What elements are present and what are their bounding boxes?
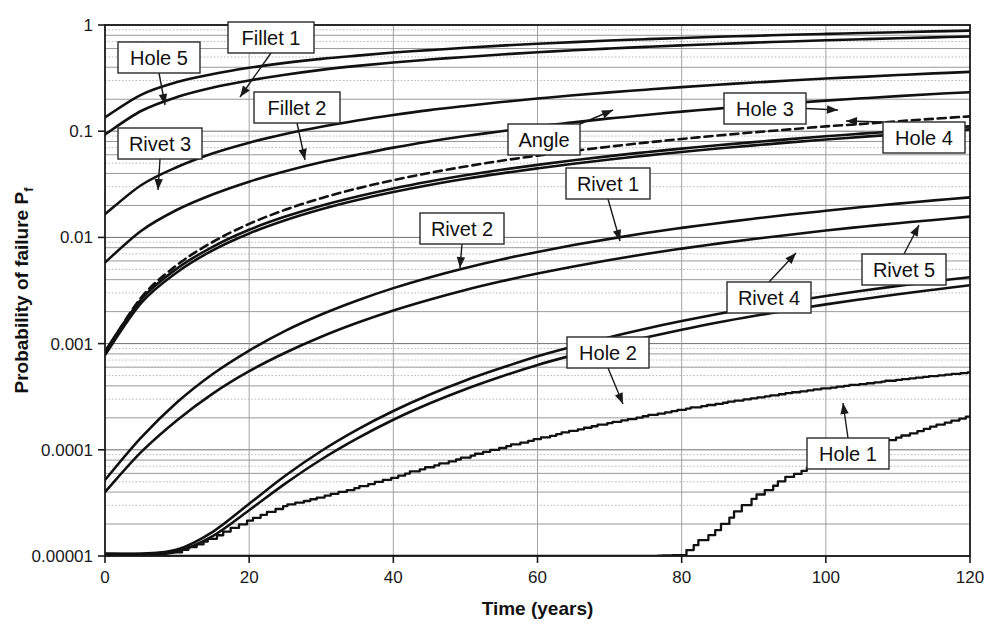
- callout-rivet-1: Rivet 1: [566, 168, 650, 241]
- callout-arrowhead: [299, 148, 307, 160]
- x-tick-labels: 020406080100120: [100, 568, 984, 587]
- callout-hole-1: Hole 1: [807, 403, 889, 469]
- y-tick-label: 0.0001: [41, 441, 93, 460]
- callout-arrowhead: [910, 225, 919, 237]
- callout-rivet-5: Rivet 5: [862, 225, 946, 285]
- callout-hole-3: Hole 3: [724, 93, 838, 124]
- y-axis-title-text: Probability of failure Pf: [11, 187, 36, 394]
- x-tick-label: 0: [100, 568, 109, 587]
- callout-arrowhead: [457, 257, 465, 268]
- probability-of-failure-chart: 020406080100120 10.10.010.0010.00010.000…: [0, 0, 999, 631]
- callout-fillet-1: Fillet 1: [228, 22, 314, 97]
- callout-label: Rivet 5: [873, 259, 935, 281]
- y-tick-label: 0.1: [69, 122, 93, 141]
- y-tick-label: 0.00001: [32, 547, 93, 566]
- callout-label: Hole 1: [819, 443, 877, 465]
- x-tick-label: 20: [240, 568, 259, 587]
- callout-label: Rivet 1: [577, 173, 639, 195]
- callout-label: Rivet 2: [431, 218, 493, 240]
- x-tick-label: 100: [812, 568, 840, 587]
- callout-arrowhead: [827, 105, 838, 113]
- axis-titles: Time (years)Probability of failure Pf: [11, 187, 593, 619]
- x-tick-label: 60: [528, 568, 547, 587]
- callout-hole-5: Hole 5: [118, 42, 200, 105]
- y-axis-title: Probability of failure Pf: [11, 187, 36, 394]
- callout-label: Hole 5: [130, 47, 188, 69]
- callout-rivet-3: Rivet 3: [118, 128, 202, 190]
- callout-label: Hole 3: [736, 98, 794, 120]
- callout-label: Hole 4: [895, 127, 953, 149]
- callout-arrowhead: [615, 392, 623, 404]
- x-tick-label: 40: [384, 568, 403, 587]
- callout-arrowhead: [155, 179, 163, 190]
- major-gridlines: [105, 25, 970, 556]
- callout-label: Fillet 2: [268, 97, 327, 119]
- callout-arrowhead: [240, 86, 250, 97]
- callout-label: Fillet 1: [242, 27, 301, 49]
- y-tick-label: 0.01: [60, 228, 93, 247]
- x-tick-label: 120: [956, 568, 984, 587]
- y-tick-label: 1: [84, 16, 93, 35]
- callout-label: Rivet 4: [738, 287, 800, 309]
- y-tick-label: 0.001: [50, 335, 93, 354]
- callout-label: Hole 2: [579, 342, 637, 364]
- callout-rivet-4: Rivet 4: [727, 253, 811, 313]
- x-tick-label: 80: [672, 568, 691, 587]
- y-axis-title-subscript: f: [21, 187, 36, 192]
- callout-rivet-2: Rivet 2: [420, 213, 504, 268]
- callout-label: Rivet 3: [129, 133, 191, 155]
- y-tick-labels: 10.10.010.0010.00010.00001: [32, 16, 93, 566]
- series-callouts: Hole 5Fillet 1Fillet 2Rivet 3AngleHole 3…: [118, 22, 965, 469]
- callout-label: Angle: [518, 129, 569, 151]
- callout-arrowhead: [840, 403, 848, 414]
- x-axis-title: Time (years): [482, 598, 594, 619]
- chart-figure: 020406080100120 10.10.010.0010.00010.000…: [0, 0, 999, 631]
- callout-hole-2: Hole 2: [567, 337, 649, 404]
